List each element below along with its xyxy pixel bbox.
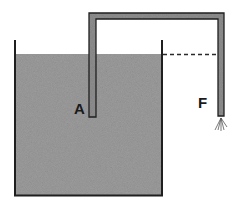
siphon-diagram: A F <box>0 0 241 212</box>
label-a: A <box>74 100 85 117</box>
outflow-spray-icon <box>215 118 227 131</box>
label-f: F <box>198 94 207 111</box>
